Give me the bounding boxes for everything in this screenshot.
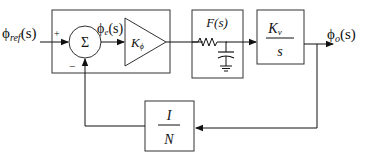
vco-block: Kv s: [257, 10, 304, 64]
error-label: ϕe(s): [97, 21, 123, 37]
svg-text:s: s: [277, 44, 283, 59]
loop-filter-title: F(s): [205, 15, 228, 30]
phase-detector-gain: Kϕ: [125, 18, 166, 66]
loop-filter: F(s): [192, 10, 243, 78]
divider-block: I N: [145, 101, 194, 151]
svg-text:N: N: [163, 132, 174, 147]
minus-sign: −: [69, 60, 75, 72]
input-label: ϕref(s): [2, 25, 36, 43]
output-label: ϕo(s): [327, 26, 356, 44]
feedback-path-left: [85, 59, 145, 126]
resistor-icon: [192, 38, 227, 46]
svg-text:Kv: Kv: [267, 21, 281, 37]
pll-block-diagram: ϕref(s) + Σ − ϕe(s) Kϕ F(s): [0, 0, 368, 159]
plus-sign: +: [54, 28, 60, 39]
svg-text:I: I: [166, 108, 173, 123]
sigma-symbol: Σ: [81, 35, 89, 50]
